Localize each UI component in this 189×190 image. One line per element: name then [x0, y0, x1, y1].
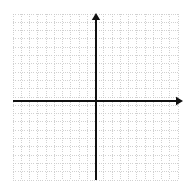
coordinate-grid-figure — [0, 0, 189, 190]
plot-canvas — [0, 0, 189, 190]
plot-background — [0, 0, 189, 190]
